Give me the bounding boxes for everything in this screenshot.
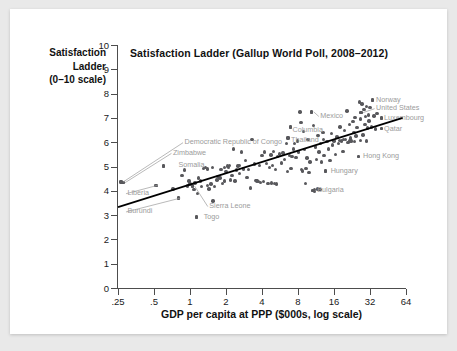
- annotated-scatter-point: [359, 111, 362, 114]
- scatter-point: [367, 113, 370, 116]
- scatter-point: [315, 158, 318, 161]
- scatter-point: [370, 125, 373, 128]
- scatter-point: [332, 139, 335, 142]
- scatter-point: [298, 110, 301, 113]
- y-tick-0: [111, 288, 117, 289]
- scatter-point: [374, 127, 377, 130]
- scatter-point: [249, 186, 252, 189]
- scatter-point: [280, 161, 283, 164]
- y-tick-label-4: 4: [87, 186, 109, 195]
- scatter-point: [375, 112, 378, 115]
- scatter-point: [286, 170, 289, 173]
- scatter-point: [338, 125, 341, 128]
- y-tick-label-3: 3: [87, 211, 109, 220]
- y-tick-2: [111, 239, 117, 240]
- scatter-point: [245, 176, 248, 179]
- scatter-point: [368, 106, 371, 109]
- scatter-point: [345, 109, 348, 112]
- scatter-point: [238, 172, 241, 175]
- x-tick-label-16: 16: [319, 297, 349, 306]
- y-tick-label-9: 9: [87, 65, 109, 74]
- scatter-point: [187, 179, 190, 182]
- annotated-scatter-point: [324, 169, 327, 172]
- scatter-point: [330, 132, 333, 135]
- y-tick-label-2: 2: [87, 235, 109, 244]
- scatter-point: [211, 166, 214, 169]
- annotation-label: Columbia: [293, 126, 323, 134]
- scatter-point: [230, 174, 233, 177]
- scatter-point: [232, 147, 235, 150]
- annotation-label: Liberia: [127, 189, 149, 197]
- scatter-point: [224, 170, 227, 173]
- scatter-point: [192, 188, 195, 191]
- scatter-point: [206, 167, 209, 170]
- y-tick-7: [111, 118, 117, 119]
- scatter-point: [270, 181, 273, 184]
- scatter-point: [260, 154, 263, 157]
- scatter-point: [365, 139, 368, 142]
- scatter-point: [223, 166, 226, 169]
- annotation-label: Hungary: [331, 167, 358, 175]
- annotated-scatter-point: [177, 196, 180, 199]
- x-tick-1: [190, 289, 191, 295]
- scatter-point: [271, 164, 274, 167]
- y-tick-3: [111, 215, 117, 216]
- x-tick-label-32: 32: [355, 297, 385, 306]
- scatter-point: [308, 160, 311, 163]
- annotated-scatter-point: [121, 181, 124, 184]
- annotated-scatter-point: [380, 116, 383, 119]
- x-tick-label-.25: .25: [103, 297, 133, 306]
- y-axis-label-line-3: (0–10 scale): [10, 73, 106, 87]
- scatter-point: [290, 155, 293, 158]
- scatter-point: [304, 167, 307, 170]
- y-tick-label-10: 10: [87, 41, 109, 50]
- scatter-point: [366, 126, 369, 129]
- x-axis-label: GDP per capita at PPP ($000s, log scale): [117, 308, 406, 320]
- scatter-point: [303, 148, 306, 151]
- scatter-point: [362, 108, 365, 111]
- x-tick-label-1: 1: [175, 297, 205, 306]
- scatter-point: [253, 162, 256, 165]
- scatter-point: [283, 158, 286, 161]
- scatter-point: [355, 126, 358, 129]
- scatter-point: [263, 150, 266, 153]
- annotation-label: Zimbabwe: [173, 149, 206, 157]
- scatter-point: [314, 145, 317, 148]
- scatter-point: [281, 151, 284, 154]
- y-tick-4: [111, 191, 117, 192]
- scatter-point: [331, 143, 334, 146]
- scatter-point: [199, 179, 202, 182]
- y-tick-label-7: 7: [87, 113, 109, 122]
- scatter-point: [361, 133, 364, 136]
- scatter-point: [274, 168, 277, 171]
- scatter-point: [334, 153, 337, 156]
- y-tick-label-6: 6: [87, 138, 109, 147]
- scatter-point: [294, 156, 297, 159]
- x-tick-2: [226, 289, 227, 295]
- scatter-point: [242, 167, 245, 170]
- scatter-point: [272, 150, 275, 153]
- y-tick-10: [111, 45, 117, 46]
- page-background: Satisfaction Ladder (0–10 scale) Satisfa…: [0, 0, 457, 351]
- scatter-point: [354, 134, 357, 137]
- chart-figure: Satisfaction Ladder (0–10 scale) Satisfa…: [10, 9, 447, 334]
- y-tick-label-1: 1: [87, 259, 109, 268]
- scatter-point: [322, 154, 325, 157]
- scatter-point: [229, 178, 232, 181]
- scatter-point: [359, 117, 362, 120]
- annotation-label: Thailand: [291, 136, 319, 144]
- scatter-point: [200, 185, 203, 188]
- x-tick-8: [298, 289, 299, 295]
- annotated-scatter-point: [195, 215, 198, 218]
- annotation-label: Democratic Republic of Congo: [185, 138, 282, 146]
- annotated-scatter-point: [191, 184, 194, 187]
- scatter-point: [367, 119, 370, 122]
- x-tick-label-64: 64: [391, 297, 421, 306]
- annotation-label: Somalia: [178, 161, 204, 169]
- scatter-point: [299, 121, 302, 124]
- scatter-point: [319, 142, 322, 145]
- plot-area: Democratic Republic of CongoZimbabweSoma…: [118, 45, 406, 288]
- y-tick-9: [111, 69, 117, 70]
- x-tick-64: [406, 289, 407, 295]
- annotation-label: Bulgaria: [317, 186, 343, 194]
